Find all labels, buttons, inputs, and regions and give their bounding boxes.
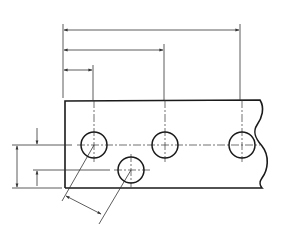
plate-outline xyxy=(65,100,267,188)
extension-lines xyxy=(12,24,240,188)
center-lines xyxy=(77,100,260,187)
horizontal-dimension-lines xyxy=(64,30,239,70)
holes xyxy=(81,132,255,183)
vertical-dimension-lines xyxy=(17,128,37,187)
technical-drawing xyxy=(0,0,289,232)
angled-dimension xyxy=(62,145,131,224)
